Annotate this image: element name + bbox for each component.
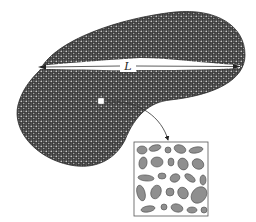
- diagram-canvas: L: [0, 0, 256, 222]
- sample-marker: [98, 98, 104, 104]
- dimension-label: L: [123, 60, 131, 73]
- magnified-inset: [134, 142, 210, 216]
- diagram-svg: L: [0, 0, 256, 222]
- granular-body: [17, 11, 245, 166]
